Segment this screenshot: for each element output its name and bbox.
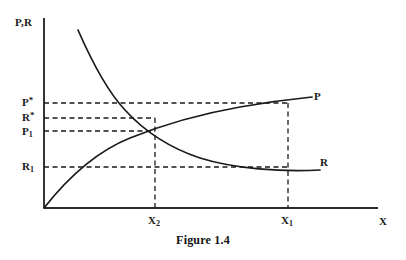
y-tick-base-p-star: P: [22, 96, 29, 108]
curve-label-p: P: [314, 91, 321, 102]
x-tick-base-x-two: X: [148, 214, 156, 226]
x-tick-sub-x-two: 2: [156, 219, 160, 228]
y-tick-label-p-one: P1: [22, 126, 33, 137]
x-tick-sub-x-one: 1: [289, 219, 293, 228]
y-tick-label-r-one: R1: [22, 161, 34, 172]
figure-caption: Figure 1.4: [0, 233, 406, 248]
y-tick-label-r-star: R*: [22, 112, 34, 123]
y-tick-base-r-one: R: [22, 160, 30, 172]
x-tick-label-x-two: X2: [148, 215, 160, 226]
curve-label-r: R: [320, 157, 328, 168]
y-axis-title: P,R: [15, 17, 32, 28]
y-tick-base-p-one: P: [22, 125, 29, 137]
y-tick-sup-p-star: *: [29, 95, 34, 105]
y-tick-label-p-star: P*: [22, 97, 33, 108]
figure-1-4: P,R X P R P* R* P1 R1 X2 X1 Figure 1.4: [0, 0, 406, 260]
y-tick-sup-r-star: *: [30, 110, 35, 120]
plot-canvas: [0, 0, 406, 260]
y-tick-sub-p-one: 1: [29, 130, 33, 139]
x-tick-label-x-one: X1: [281, 215, 293, 226]
p-curve: [44, 97, 312, 208]
y-tick-base-r-star: R: [22, 111, 30, 123]
x-axis-title: X: [379, 216, 387, 227]
y-tick-sub-r-one: 1: [30, 165, 34, 174]
x-tick-base-x-one: X: [281, 214, 289, 226]
